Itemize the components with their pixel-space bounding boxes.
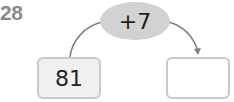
- arrow-curve-right: [168, 22, 198, 52]
- start-value-box: 81: [37, 57, 101, 99]
- connector-curve-left: [70, 22, 102, 57]
- arrowhead-icon: [194, 48, 201, 55]
- answer-box[interactable]: [166, 57, 230, 99]
- operation-oval: +7: [100, 2, 170, 40]
